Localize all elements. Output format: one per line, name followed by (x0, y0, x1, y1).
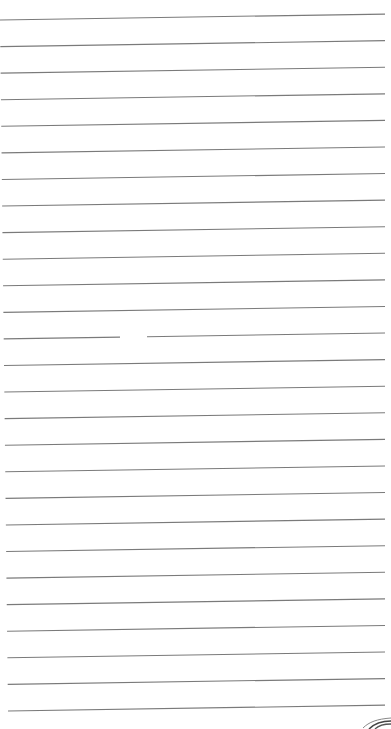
ruled-line (0, 41, 385, 47)
ruled-line (6, 519, 385, 525)
ruled-line (4, 386, 385, 392)
ruled-line (2, 174, 385, 180)
ruled-line (6, 493, 385, 499)
ruled-line (3, 253, 385, 259)
ruled-line (2, 200, 385, 206)
lined-paper (0, 0, 391, 729)
ruled-line (7, 625, 385, 631)
ruled-line (8, 705, 385, 711)
ruled-line (5, 466, 385, 472)
ruled-line (3, 306, 385, 312)
ruled-line (4, 337, 120, 339)
ruled-line (1, 67, 385, 73)
ruled-line (147, 333, 385, 337)
ruled-line (6, 546, 385, 552)
ruled-line (7, 599, 385, 605)
ruled-line (8, 679, 385, 685)
ruled-line (1, 94, 385, 100)
swoosh-logo-icon (361, 713, 391, 729)
ruled-line (7, 652, 385, 658)
ruled-line (1, 120, 385, 126)
ruled-line (3, 280, 385, 286)
ruled-line (2, 227, 385, 233)
ruled-line (0, 14, 385, 20)
ruled-line (6, 572, 385, 578)
ruled-line (5, 413, 385, 419)
ruled-line (4, 360, 385, 366)
ruled-line (5, 439, 385, 445)
ruled-line (2, 147, 385, 153)
